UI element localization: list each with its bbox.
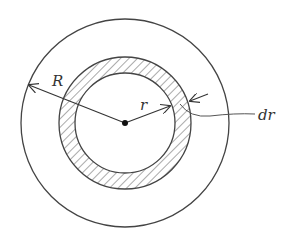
label-dr: dr [258, 106, 276, 124]
thickness-arrow [190, 94, 208, 101]
inner-radius-arrow [125, 106, 170, 123]
thickness-leader-line [180, 104, 255, 116]
center-point [122, 120, 128, 126]
annulus-diagram: R r dr [0, 0, 293, 246]
label-r: r [140, 96, 148, 114]
label-R: R [51, 72, 63, 90]
